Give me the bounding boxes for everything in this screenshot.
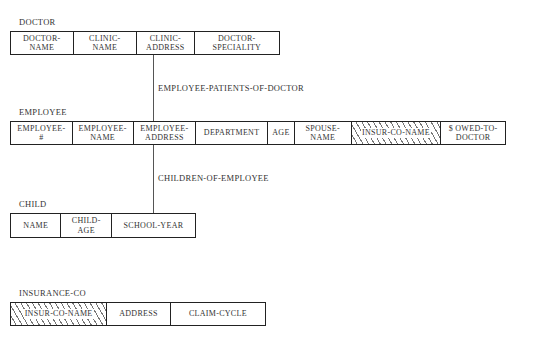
connector-employee-child	[153, 145, 154, 213]
field-doctor-speciality: DOCTOR- SPECIALITY	[195, 32, 279, 54]
field-doctor-name: DOCTOR- NAME	[11, 32, 74, 54]
relationship-children-of-employee: CHILDREN-OF-EMPLOYEE	[158, 173, 269, 183]
field-claim-cycle: CLAIM-CYCLE	[171, 303, 265, 325]
employee-record: EMPLOYEE- # EMPLOYEE- NAME EMPLOYEE- ADD…	[10, 121, 506, 145]
insurance-co-record-title: INSURANCE-CO	[19, 288, 86, 298]
field-child-age: CHILD- AGE	[61, 214, 111, 237]
doctor-record: DOCTOR- NAME CLINIC- NAME CLINIC- ADDRES…	[10, 31, 280, 55]
field-employee-address: EMPLOYEE- ADDRESS	[134, 122, 197, 144]
field-owed-to-doctor: $ OWED-TO- DOCTOR	[441, 122, 505, 144]
field-department: DEPARTMENT	[196, 122, 268, 144]
insurance-co-record: INSUR-CO-NAME ADDRESS CLAIM-CYCLE	[10, 302, 266, 326]
child-record-title: CHILD	[19, 199, 46, 209]
field-insur-co-name-key-label: INSUR-CO-NAME	[24, 309, 94, 319]
field-clinic-name: CLINIC- NAME	[74, 32, 138, 54]
connector-doctor-employee	[153, 55, 154, 121]
field-age: AGE	[268, 122, 295, 144]
field-employee-number: EMPLOYEE- #	[11, 122, 73, 144]
relationship-employee-patients-of-doctor: EMPLOYEE-PATIENTS-OF-DOCTOR	[158, 83, 304, 93]
doctor-record-title: DOCTOR	[19, 17, 56, 27]
field-insurance-address: ADDRESS	[107, 303, 171, 325]
field-child-name: NAME	[11, 214, 61, 237]
field-school-year: SCHOOL-YEAR	[112, 214, 195, 237]
employee-record-title: EMPLOYEE	[19, 107, 67, 117]
field-insur-co-name-label: INSUR-CO-NAME	[361, 128, 431, 138]
child-record: NAME CHILD- AGE SCHOOL-YEAR	[10, 213, 196, 238]
field-spouse-name: SPOUSE- NAME	[295, 122, 352, 144]
field-employee-name: EMPLOYEE- NAME	[73, 122, 134, 144]
field-insur-co-name-hatched: INSUR-CO-NAME	[352, 122, 442, 144]
field-clinic-address: CLINIC- ADDRESS	[137, 32, 195, 54]
field-insur-co-name-key-hatched: INSUR-CO-NAME	[11, 303, 107, 325]
